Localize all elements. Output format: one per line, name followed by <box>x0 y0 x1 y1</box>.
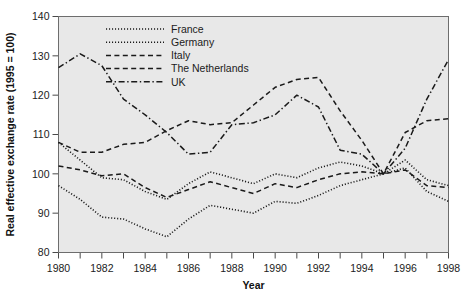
x-axis: 1980198219841986198819901992199419961998 <box>47 253 461 274</box>
x-tick-label: 1996 <box>393 262 417 274</box>
x-tick-label: 1992 <box>307 262 331 274</box>
x-tick-label: 1982 <box>90 262 114 274</box>
legend-label-the-netherlands: The Netherlands <box>171 62 249 74</box>
y-tick-label: 140 <box>32 10 50 22</box>
legend-label-uk: UK <box>171 76 186 88</box>
y-tick-label: 90 <box>38 207 50 219</box>
exchange-rate-line-chart: 8090100110120130140198019821984198619881… <box>0 0 461 295</box>
legend-label-france: France <box>171 23 204 35</box>
x-tick-label: 1980 <box>47 262 71 274</box>
legend-label-italy: Italy <box>171 49 191 61</box>
x-tick-label: 1998 <box>437 262 461 274</box>
x-tick-label: 1994 <box>350 262 374 274</box>
y-axis-title: Real effective exchange rate (1995 = 100… <box>4 33 16 237</box>
y-tick-label: 80 <box>38 246 50 258</box>
x-tick-label: 1984 <box>133 262 157 274</box>
y-tick-label: 100 <box>32 168 50 180</box>
legend-label-germany: Germany <box>171 36 215 48</box>
x-tick-label: 1986 <box>177 262 201 274</box>
y-tick-label: 110 <box>33 128 50 140</box>
x-axis-title: Year <box>242 279 264 291</box>
x-tick-label: 1988 <box>220 262 244 274</box>
x-tick-label: 1990 <box>263 262 287 274</box>
y-tick-label: 130 <box>32 50 50 62</box>
y-axis: 8090100110120130140 <box>32 10 59 258</box>
y-tick-label: 120 <box>32 89 50 101</box>
chart-container: 8090100110120130140198019821984198619881… <box>0 0 461 295</box>
